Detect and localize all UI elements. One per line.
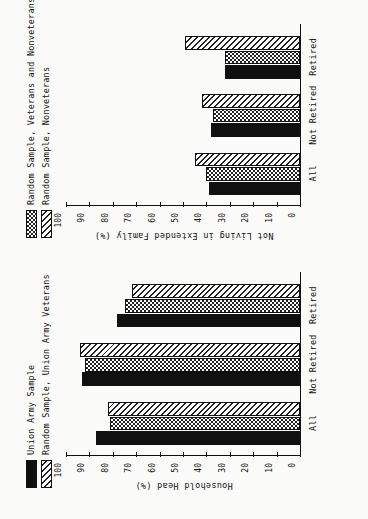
legend-label: Union Army Sample	[27, 364, 36, 454]
y-tick-label: 10	[266, 213, 274, 223]
y-tick	[206, 452, 207, 457]
plot-area-not-living-extended-family: 0 10 20 30 40 50 60 70 80	[67, 24, 301, 206]
rotated-figure-wrapper: Union Army Sample Random Sample, Union A…	[0, 0, 368, 519]
figure-canvas: Union Army Sample Random Sample, Union A…	[23, 12, 345, 508]
y-tick	[160, 452, 161, 457]
x-category-label: All	[308, 165, 318, 181]
bar-series-1	[82, 372, 300, 386]
legend-label: Random Sample, Nonveterans	[42, 66, 51, 204]
legend-swatch-hatch-icon	[41, 460, 52, 488]
legend-label: Random Sample, Veterans and Nonveterans	[27, 0, 36, 205]
y-tick-label: 30	[219, 463, 227, 473]
chart-not-living-extended-family: Random Sample, Veterans and Nonveterans …	[23, 16, 345, 254]
y-tick-label: 0	[289, 463, 297, 468]
bar-series-2	[85, 357, 300, 371]
y-tick	[300, 202, 301, 207]
bar-series-3	[195, 152, 300, 166]
bar-group: Retired	[66, 283, 300, 327]
y-tick-label: 50	[172, 463, 180, 473]
y-tick-label: 100	[55, 463, 63, 477]
bar-series-3	[185, 36, 300, 50]
legend-household-head: Union Army Sample Random Sample, Union A…	[25, 274, 55, 488]
y-axis	[67, 455, 301, 456]
legend-swatch-solid-icon	[26, 460, 37, 488]
bar-series-3	[132, 284, 300, 298]
legend-item: Union Army Sample	[25, 274, 38, 488]
y-tick	[300, 452, 301, 457]
y-tick	[230, 452, 231, 457]
legend-swatch-hatch-icon	[41, 210, 52, 238]
y-tick-label: 40	[195, 213, 203, 223]
y-tick	[183, 202, 184, 207]
y-axis-label: Household Head (%)	[135, 481, 233, 491]
y-tick	[89, 202, 90, 207]
y-tick	[253, 202, 254, 207]
bar-group: Not Retired	[66, 93, 300, 137]
x-category-label: Not Retired	[308, 85, 318, 145]
y-tick	[113, 452, 114, 457]
y-axis	[67, 205, 301, 206]
legend-item: Random Sample, Veterans and Nonveterans	[25, 0, 38, 238]
bar-group: All	[66, 151, 300, 195]
x-axis	[300, 24, 301, 206]
legend-item: Random Sample, Nonveterans	[40, 0, 53, 238]
x-axis	[300, 272, 301, 456]
bar-series-2	[206, 167, 300, 181]
x-category-label: Retired	[308, 37, 318, 75]
bar-series-2	[225, 50, 300, 64]
y-tick-label: 40	[195, 463, 203, 473]
y-tick	[66, 452, 67, 457]
y-tick-label: 90	[78, 463, 86, 473]
bar-group: All	[66, 400, 300, 444]
bar-series-1	[209, 181, 300, 195]
x-category-label: All	[308, 414, 318, 430]
bar-series-1	[211, 123, 300, 137]
y-tick	[183, 452, 184, 457]
bar-series-1	[225, 65, 300, 79]
chart-household-head: Union Army Sample Random Sample, Union A…	[23, 264, 345, 504]
y-tick	[136, 452, 137, 457]
y-tick-label: 20	[242, 463, 250, 473]
y-tick	[136, 202, 137, 207]
bar-series-1	[117, 313, 300, 327]
bar-series-3	[108, 402, 300, 416]
y-tick	[206, 202, 207, 207]
y-tick-label: 60	[149, 213, 157, 223]
y-tick	[66, 202, 67, 207]
y-tick-label: 90	[78, 213, 86, 223]
x-category-label: Not Retired	[308, 334, 318, 394]
y-tick-label: 0	[289, 213, 297, 218]
y-tick	[277, 202, 278, 207]
y-tick-label: 70	[125, 463, 133, 473]
bar-series-3	[80, 343, 300, 357]
y-tick-label: 10	[266, 463, 274, 473]
legend-item: Random Sample, Union Army Veterans	[40, 274, 53, 488]
bar-series-1	[96, 431, 300, 445]
bar-series-3	[202, 94, 300, 108]
bar-series-2	[110, 416, 300, 430]
y-tick	[230, 202, 231, 207]
y-tick-label: 70	[125, 213, 133, 223]
y-tick	[113, 202, 114, 207]
x-category-label: Retired	[308, 286, 318, 324]
y-tick-label: 30	[219, 213, 227, 223]
y-tick	[253, 452, 254, 457]
y-tick	[160, 202, 161, 207]
bar-group: Not Retired	[66, 341, 300, 385]
legend-not-living-extended-family: Random Sample, Veterans and Nonveterans …	[25, 0, 55, 238]
y-tick-label: 100	[55, 213, 63, 227]
plot-area-household-head: 0 10 20 30 40 50 60 70 80	[67, 272, 301, 456]
bar-series-2	[125, 298, 301, 312]
y-tick-label: 80	[102, 213, 110, 223]
legend-swatch-check-icon	[26, 210, 37, 238]
y-tick	[89, 452, 90, 457]
y-axis-label: Not Living in Extended Family (%)	[95, 231, 274, 241]
legend-label: Random Sample, Union Army Veterans	[42, 274, 51, 455]
figure-page: Union Army Sample Random Sample, Union A…	[0, 0, 368, 519]
y-tick-label: 50	[172, 213, 180, 223]
bar-series-2	[213, 108, 300, 122]
y-tick-label: 20	[242, 213, 250, 223]
y-tick-label: 60	[149, 463, 157, 473]
y-tick-label: 80	[102, 463, 110, 473]
bar-group: Retired	[66, 34, 300, 78]
